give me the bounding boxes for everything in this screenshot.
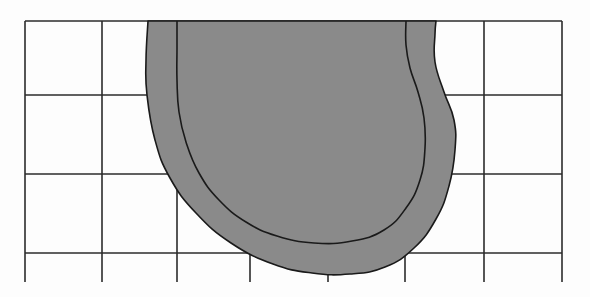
figure-root	[0, 0, 590, 297]
grid-band-figure	[0, 0, 590, 297]
